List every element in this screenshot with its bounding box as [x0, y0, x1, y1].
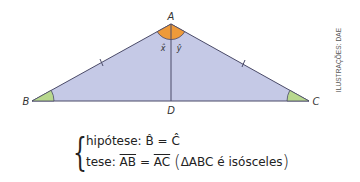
hypothesis-line: hipótese: B̂ = Ĉ: [86, 134, 180, 148]
thesis-note: ΔABC é isósceles: [181, 155, 283, 169]
paren-close: ): [283, 152, 290, 172]
angle-label-y: ŷ: [176, 44, 182, 53]
thesis-line: tese: AB = AC (ΔABC é isósceles): [86, 152, 289, 172]
thesis-equals: =: [140, 155, 150, 169]
label-a: A: [167, 11, 175, 22]
segment-ac: AC: [154, 155, 170, 169]
angle-label-x: x̂: [160, 43, 166, 53]
hypothesis-equals: =: [158, 134, 168, 148]
hypothesis-label: hipótese:: [86, 134, 142, 148]
credit-text: ILUSTRAÇÕES: DAE: [335, 28, 342, 92]
label-c: C: [313, 96, 320, 107]
isosceles-triangle-diagram: A B C D x̂ ŷ: [0, 0, 360, 125]
hypothesis-lhs: B̂: [146, 134, 154, 148]
base-angle-b: [32, 90, 54, 101]
hypothesis-rhs: Ĉ: [171, 134, 179, 148]
left-brace: {: [73, 131, 87, 171]
paren-open: (: [174, 152, 181, 172]
illustration-credit: ILUSTRAÇÕES: DAE: [338, 60, 348, 70]
segment-ab: AB: [120, 155, 136, 169]
label-d: D: [167, 105, 175, 116]
base-angle-c: [287, 90, 309, 101]
label-b: B: [23, 96, 30, 107]
thesis-label: tese:: [86, 155, 116, 169]
